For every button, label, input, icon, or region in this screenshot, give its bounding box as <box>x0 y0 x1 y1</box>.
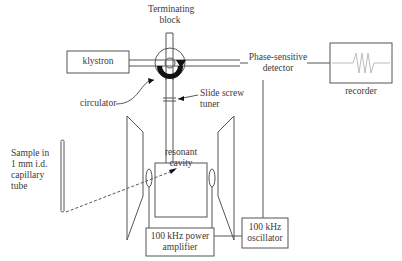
sample-tube <box>61 140 64 212</box>
magnet-right <box>218 116 234 240</box>
recorder-trace <box>332 53 390 73</box>
amplifier-label: 100 kHz power amplifier <box>146 231 214 253</box>
cavity-label: resonant cavity <box>155 147 207 169</box>
circulator-label: circulator <box>80 98 116 109</box>
recorder-label: recorder <box>330 86 392 97</box>
terminating-block-label: Terminating block <box>148 4 192 26</box>
cavity-box <box>155 163 207 217</box>
sample-label: Sample in 1 mm i.d. capillary tube <box>11 148 49 192</box>
magnet-left <box>127 116 143 240</box>
phase-detector-label: Phase-sensitive detector <box>246 52 310 74</box>
klystron-label: klystron <box>67 56 129 67</box>
diagram-canvas <box>0 0 402 261</box>
slide-screw-label: Slide screw tuner <box>200 88 244 110</box>
oscillator-label: 100 kHz oscillator <box>242 222 288 244</box>
